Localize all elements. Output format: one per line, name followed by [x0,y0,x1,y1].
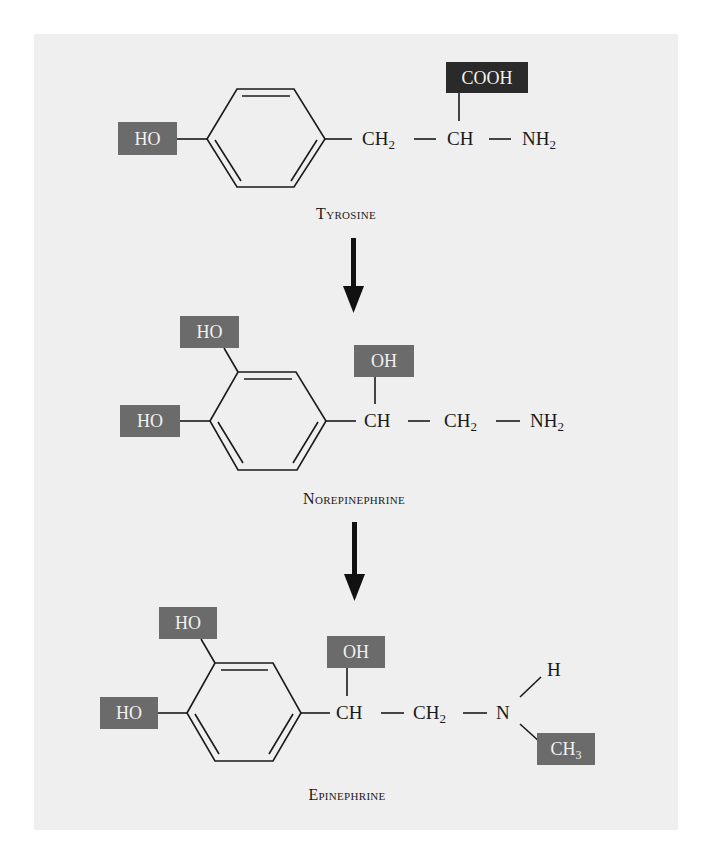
tyrosine-cooh-group: COOH [446,62,528,93]
reaction-arrow-1 [343,238,364,313]
reaction-arrow-2 [344,522,365,601]
epinephrine-ho-top-group: HO [159,607,217,639]
tyrosine-ho-group: HO [118,122,177,155]
norepinephrine-ch2-group: CH2 [444,411,477,430]
epinephrine-n-atom: N [496,703,510,722]
epinephrine-benzene-ring [187,663,301,761]
epinephrine-ho-top-bond [201,639,215,663]
molecule-name-tyrosine: Tyrosine [266,205,426,223]
norepinephrine-oh-group: OH [354,345,414,377]
tyrosine-nh2-group: NH2 [522,129,556,148]
norepinephrine-nh2-group: NH2 [530,411,564,430]
epinephrine-ch3-group: CH3 [537,733,595,765]
norepinephrine-ch-group: CH [364,411,390,430]
ho-label: HO [135,130,161,148]
norepinephrine-ho-top-bond [224,348,238,372]
tyrosine-ch2-group: CH2 [362,129,395,148]
cooh-label: COOH [461,69,512,87]
norepinephrine-ho-top-group: HO [180,316,239,348]
epinephrine-h-atom: H [547,660,561,679]
epinephrine-ho-left-group: HO [100,697,158,729]
ho-label: HO [116,704,142,722]
tyrosine-ch-group: CH [447,129,473,148]
molecule-name-norepinephrine: Norepinephrine [254,490,454,508]
molecule-name-epinephrine: Epinephrine [272,786,422,804]
oh-label: OH [343,643,369,661]
norepinephrine-ho-left-group: HO [120,405,180,437]
norepinephrine-benzene-ring [210,372,326,470]
epinephrine-ch-group: CH [336,703,362,722]
ho-label: HO [137,412,163,430]
tyrosine-benzene-ring [207,89,325,187]
oh-label: OH [371,352,397,370]
epinephrine-ch2-group: CH2 [413,703,446,722]
ho-label: HO [197,323,223,341]
epinephrine-oh-group: OH [327,636,385,668]
epinephrine-n-h-bond [520,677,541,697]
ho-label: HO [175,614,201,632]
ch3-label: CH3 [550,740,581,758]
